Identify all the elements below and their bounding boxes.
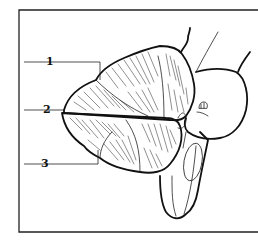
leader-3 (24, 150, 98, 164)
label-2: 2 (43, 104, 51, 115)
cerebellum-illustration (0, 0, 258, 245)
upper-stalk (181, 28, 218, 72)
label-1: 1 (46, 56, 54, 67)
cerebellum-upper-hemisphere (64, 46, 195, 120)
leader-1 (24, 62, 100, 80)
diagram-canvas: 1 2 3 (0, 0, 258, 245)
figure-frame (19, 10, 258, 232)
brainstem (160, 132, 208, 218)
label-3: 3 (41, 158, 49, 169)
